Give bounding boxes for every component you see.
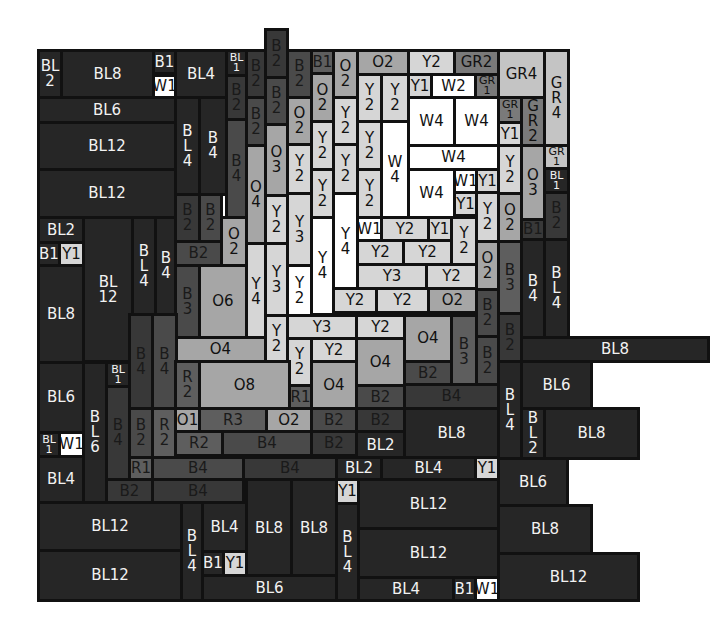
block-bl6: BL6 [37,96,177,124]
block-b4: B4 [221,430,313,457]
block-gr4: GR4 [497,49,546,99]
block-bl12: BL12 [37,549,183,602]
block-o2: O 2 [497,192,523,243]
block-gr2: G R 2 [520,96,546,147]
block-o6: O6 [198,264,248,339]
block-bl8: BL8 [245,478,293,578]
block-bl6: BL6 [201,574,338,602]
block-y2: Y 2 [450,216,478,266]
block-bl4: BL4 [37,455,85,504]
block-bl4: BL4 [174,49,228,99]
block-b2: B 2 [174,193,201,243]
block-o2: O 2 [286,96,313,146]
block-bl6: BL6 [497,457,569,507]
block-y2: Y 2 [286,264,313,317]
block-y2: Y 2 [286,143,313,195]
block-b2: B 2 [543,191,570,241]
block-y3: Y 3 [286,192,313,267]
block-b3: B 3 [450,314,478,389]
block-y2: Y 2 [356,168,383,219]
block-b3: B 3 [174,264,201,339]
block-o8: O8 [198,360,291,410]
block-y4: Y 4 [332,192,359,292]
block-bl8: BL8 [403,407,500,460]
block-b4: B 4 [198,96,228,196]
block-bl12: BL12 [497,552,640,602]
block-o2: O 2 [332,49,359,99]
block-b4: B4 [403,383,500,410]
block-b2: B2 [174,240,223,267]
block-bl4: B L 4 [543,238,570,339]
block-bl4: B L 4 [174,96,201,196]
block-bl8: BL8 [520,336,710,363]
block-bl8: BL8 [290,478,338,578]
block-y2: Y2 [375,287,430,314]
block-bl4: BL4 [357,576,455,602]
block-bl6: BL6 [520,360,593,410]
block-bl6: BL6 [37,361,85,434]
block-o4: O4 [403,314,453,363]
block-y2: Y2 [402,239,453,266]
block-y2: Y2 [425,263,478,290]
block-o4: O4 [310,360,358,410]
block-y2: Y 2 [356,73,383,123]
block-w4: W4 [407,96,456,147]
block-diagram: BL 2BL8B1W1BL4BL 1B 2B 2B 2B 2B 2B1O 2O … [0,0,723,635]
block-gr4: G R 4 [543,49,570,147]
block-gr2: GR2 [453,49,500,76]
block-w4: W4 [407,168,456,219]
block-o2: O 2 [220,216,248,267]
block-b2: B2 [310,430,358,457]
block-o2: O2 [427,287,478,314]
block-w1: W1 [58,431,85,458]
block-y3: Y3 [356,263,428,290]
block-bl12: BL 12 [82,216,134,363]
block-bl12: BL12 [357,478,500,530]
block-w4: W 4 [380,120,410,219]
block-bl8: BL8 [37,264,85,364]
block-bl2: BL2 [37,216,85,244]
block-r2: R 2 [174,360,201,410]
block-bl8: BL8 [497,504,593,555]
block-bl12: BL12 [37,121,177,171]
block-y2: Y 2 [380,73,410,123]
block-y2: Y 2 [332,96,359,146]
block-y2: Y 2 [356,120,383,171]
block-bl12: BL12 [37,168,177,219]
block-y2: Y2 [356,239,405,266]
block-r2: R2 [174,430,224,457]
block-b2: B 2 [286,49,313,99]
block-y2: Y 2 [332,143,359,195]
block-o4: O4 [174,336,267,363]
block-y2: Y2 [332,287,378,314]
block-bl12: BL12 [37,501,183,552]
block-y2: Y2 [407,49,456,76]
block-w4: W4 [453,96,500,147]
block-bl1: BL 1 [543,167,570,194]
block-bl8: BL8 [543,407,640,460]
block-bl8: BL8 [60,49,155,99]
block-bl12: BL12 [357,527,500,579]
block-o2: O2 [356,49,410,76]
block-o4: O4 [355,337,406,387]
block-w4: W4 [407,144,500,171]
block-bl4: BL4 [201,501,248,553]
